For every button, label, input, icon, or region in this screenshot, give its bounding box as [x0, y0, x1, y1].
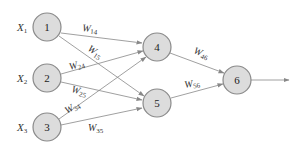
node-3-label: 3 [44, 121, 50, 133]
weight-label-w35: W35 [88, 122, 104, 135]
input-label-x2: X2 [16, 72, 28, 86]
weight-label-w56: W56 [183, 76, 201, 92]
weight-label-w15: W15 [85, 43, 105, 63]
weight-label-w46: W46 [192, 45, 212, 63]
node-2: 2 [33, 64, 61, 92]
neural-network-diagram: 1 2 3 4 5 6 X1 X2 X3 W14 W15 W24 [0, 0, 303, 150]
node-3: 3 [33, 113, 61, 141]
input-label-x1: X1 [16, 21, 28, 35]
node-4: 4 [143, 33, 171, 61]
weight-label-w25: W25 [70, 83, 89, 100]
node-1: 1 [33, 13, 61, 41]
node-6-label: 6 [234, 74, 240, 86]
node-5-label: 5 [154, 97, 160, 109]
node-4-label: 4 [154, 41, 160, 53]
node-2-label: 2 [44, 72, 50, 84]
weight-label-w14: W14 [82, 22, 99, 37]
weight-labels: W14 W15 W24 W25 W34 W35 W46 W56 [63, 22, 212, 135]
node-6: 6 [223, 66, 251, 94]
node-1-label: 1 [44, 21, 50, 33]
input-labels: X1 X2 X3 [16, 21, 28, 135]
edge-1-4 [61, 33, 142, 43]
node-5: 5 [143, 89, 171, 117]
input-label-x3: X3 [16, 121, 28, 135]
nodes: 1 2 3 4 5 6 [33, 13, 251, 141]
weight-label-w24: W24 [68, 57, 87, 74]
